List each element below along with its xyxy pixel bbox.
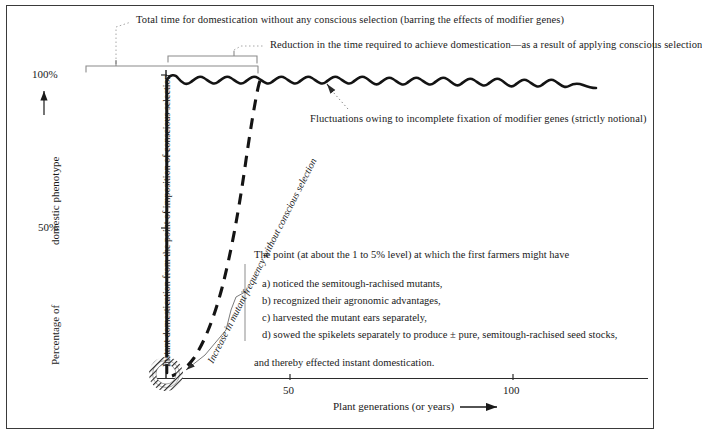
x-tick-label-50: 50 — [283, 384, 294, 397]
annotation-fluctuations: Fluctuations owing to incomplete fixatio… — [310, 113, 647, 125]
callout-lead: The point (at about the 1 to 5% level) a… — [254, 250, 617, 261]
callout-block: The point (at about the 1 to 5% level) a… — [254, 250, 617, 368]
dashed-curve-no-selection — [172, 79, 261, 376]
leader-fluctuations — [327, 84, 348, 109]
callout-item-d: d) sowed the spikelets separately to pro… — [262, 326, 617, 343]
callout-item-a: a) noticed the semitough-rachised mutant… — [262, 275, 617, 292]
y-axis-title-bottom: Percentage of — [49, 305, 62, 365]
y-axis-title-top: domestic phenotype — [49, 157, 62, 245]
annotation-reduction: Reduction in the time required to achiev… — [270, 39, 702, 51]
callout-item-b: b) recognized their agronomic advantages… — [262, 292, 617, 309]
bracket-total-time — [86, 22, 258, 73]
curve-label-instant-domestication: Instant domestication from the point of … — [161, 75, 173, 367]
bracket-reduction — [168, 46, 265, 63]
x-tick-label-100: 100 — [503, 384, 520, 397]
callout-tail: and thereby effected instant domesticati… — [254, 358, 617, 369]
annotation-total-time: Total time for domestication without any… — [136, 14, 564, 26]
callout-item-c: c) harvested the mutant ears separately, — [262, 309, 617, 326]
y-tick-label-100: 100% — [32, 68, 58, 81]
x-axis-title: Plant generations (or years) — [333, 400, 454, 413]
